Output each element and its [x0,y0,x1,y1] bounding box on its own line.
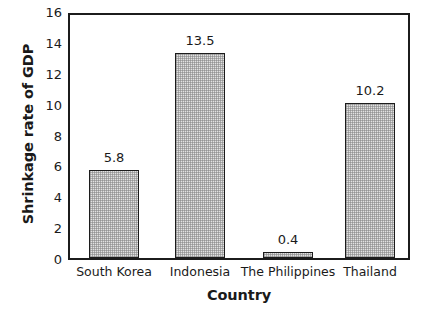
bar-thailand [345,103,395,258]
y-tick-label: 14 [36,37,62,50]
y-axis-tick-labels: 16 14 12 10 8 6 4 2 0 [36,13,62,260]
bar-indonesia [175,53,225,258]
bar-value-label: 13.5 [160,34,240,47]
y-tick-label: 6 [36,160,62,173]
y-tick-label: 8 [36,130,62,143]
bar-chart-figure: Shrinkage rate of GDP 16 14 12 10 8 6 4 … [0,0,427,318]
plot-area: 5.8 13.5 0.4 10.2 [68,13,410,260]
y-tick-label: 2 [36,222,62,235]
y-tick-label: 10 [36,99,62,112]
y-tick-label: 12 [36,68,62,81]
y-tick-label: 16 [36,6,62,19]
bar-the-philippines [263,252,313,258]
bar-south-korea [89,170,139,258]
x-axis-category-labels: South Korea Indonesia The Philippines Th… [68,264,410,284]
bar-value-label: 0.4 [248,233,328,246]
x-axis-title: Country [68,287,410,303]
y-tick-label: 4 [36,191,62,204]
y-axis-title: Shrinkage rate of GDP [20,19,36,249]
bar-value-label: 10.2 [330,84,410,97]
bar-value-label: 5.8 [74,151,154,164]
x-category-label-thailand: Thailand [315,264,425,279]
